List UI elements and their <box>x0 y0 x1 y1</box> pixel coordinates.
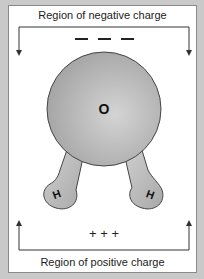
positive-charge-symbols: + + + <box>89 226 119 241</box>
oxygen-label: O <box>99 101 110 117</box>
water-molecule-diagram: + + + O H H <box>0 0 204 279</box>
arrow-up-left-icon <box>16 220 22 226</box>
arrow-up-right-icon <box>186 220 192 226</box>
arrow-down-left-icon <box>16 50 22 56</box>
arrow-down-right-icon <box>186 50 192 56</box>
